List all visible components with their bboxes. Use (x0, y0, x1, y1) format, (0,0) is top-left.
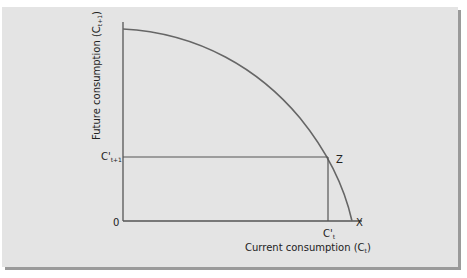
y-axis-label: Future consumption (Ct+1) (91, 11, 103, 140)
point-z-label: Z (336, 154, 343, 165)
ppf-curve (123, 29, 352, 221)
x-tick-label: C't (323, 228, 336, 240)
x-axis-label: Current consumption (Ct) (245, 242, 371, 254)
point-x-label: X (356, 217, 363, 228)
origin-label: 0 (113, 217, 119, 228)
intertemporal-production-possibility-diagram: 0 Z X C't+1 C't Current consumption (Ct)… (0, 0, 467, 278)
y-tick-label: C't+1 (101, 151, 122, 163)
